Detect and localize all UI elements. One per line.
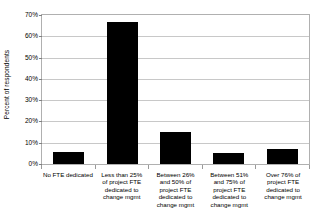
bar-slot (95, 15, 148, 164)
x-axis-category-label-line: project FTE (257, 178, 309, 185)
x-axis-category-label-line: Between 26% (150, 171, 202, 178)
plot-area (41, 14, 310, 165)
x-axis-category-label: Between 26%and 50% ofproject FTEdedicate… (149, 171, 203, 217)
x-axis-tick-mark (95, 165, 96, 169)
x-axis-category-label-line: dedicated to (96, 186, 148, 193)
x-axis-category-label-line: change mgmt (96, 193, 148, 200)
y-axis-tick-label: 30% (25, 96, 38, 103)
bar[interactable] (53, 152, 84, 164)
y-axis-tick-label: 70% (25, 11, 38, 18)
x-axis-category-label-line: dedicated to (257, 186, 309, 193)
y-axis-tick-label: 60% (25, 32, 38, 39)
x-axis-category-label-line: of project FTE (96, 178, 148, 185)
y-axis-tick-label: 20% (25, 117, 38, 124)
x-axis-category-label-line: project FTE (203, 186, 255, 193)
x-axis-category-label: No FTE dedicated (41, 171, 95, 217)
x-axis-tick-marks (41, 165, 310, 170)
y-axis-tick-labels: 0%10%20%30%40%50%60%70% (14, 10, 40, 168)
y-axis-tick-label: 10% (25, 138, 38, 145)
x-axis-tick-mark (309, 165, 310, 169)
y-axis-tick-label: 0% (29, 160, 38, 167)
bar-slot (42, 15, 95, 164)
y-axis-title-text: Percent of respondents (4, 49, 11, 118)
x-axis-tick-mark (41, 165, 42, 169)
x-axis-category-label-line: and 75% of (203, 178, 255, 185)
bar[interactable] (267, 149, 298, 164)
x-axis-category-label-line: No FTE dedicated (42, 171, 94, 178)
x-axis-category-label-line: dedicated to (203, 193, 255, 200)
bar-slot (256, 15, 309, 164)
y-axis-tick-label: 40% (25, 74, 38, 81)
x-axis-category-labels: No FTE dedicatedLess than 25%of project … (41, 171, 310, 217)
x-axis-tick-mark (202, 165, 203, 169)
bar-slot (202, 15, 255, 164)
x-axis-category-label: Less than 25%of project FTEdedicated toc… (95, 171, 149, 217)
x-axis-category-label-line: change mgmt (150, 201, 202, 208)
x-axis-tick-mark (148, 165, 149, 169)
x-axis-category-label-line: project FTE (150, 186, 202, 193)
x-axis-category-label-line: Between 51% (203, 171, 255, 178)
x-axis-category-label-line: change mgmt (257, 193, 309, 200)
y-axis-tick-label: 50% (25, 53, 38, 60)
x-axis-category-label: Between 51%and 75% ofproject FTEdedicate… (202, 171, 256, 217)
bar[interactable] (160, 132, 191, 164)
bar-slot (149, 15, 202, 164)
bar[interactable] (107, 22, 138, 164)
bar-chart: Percent of respondents 0%10%20%30%40%50%… (0, 0, 325, 218)
x-axis-category-label-line: and 50% of (150, 178, 202, 185)
y-axis-title: Percent of respondents (0, 0, 14, 168)
x-axis-tick-mark (255, 165, 256, 169)
x-axis-category-label-line: dedicated to (150, 193, 202, 200)
x-axis-category-label-line: change mgmt (203, 201, 255, 208)
bars-group (42, 15, 309, 164)
x-axis-category-label: Over 76% ofproject FTEdedicated tochange… (256, 171, 310, 217)
x-axis-category-label-line: Less than 25% (96, 171, 148, 178)
x-axis-category-label-line: Over 76% of (257, 171, 309, 178)
bar[interactable] (213, 153, 244, 164)
